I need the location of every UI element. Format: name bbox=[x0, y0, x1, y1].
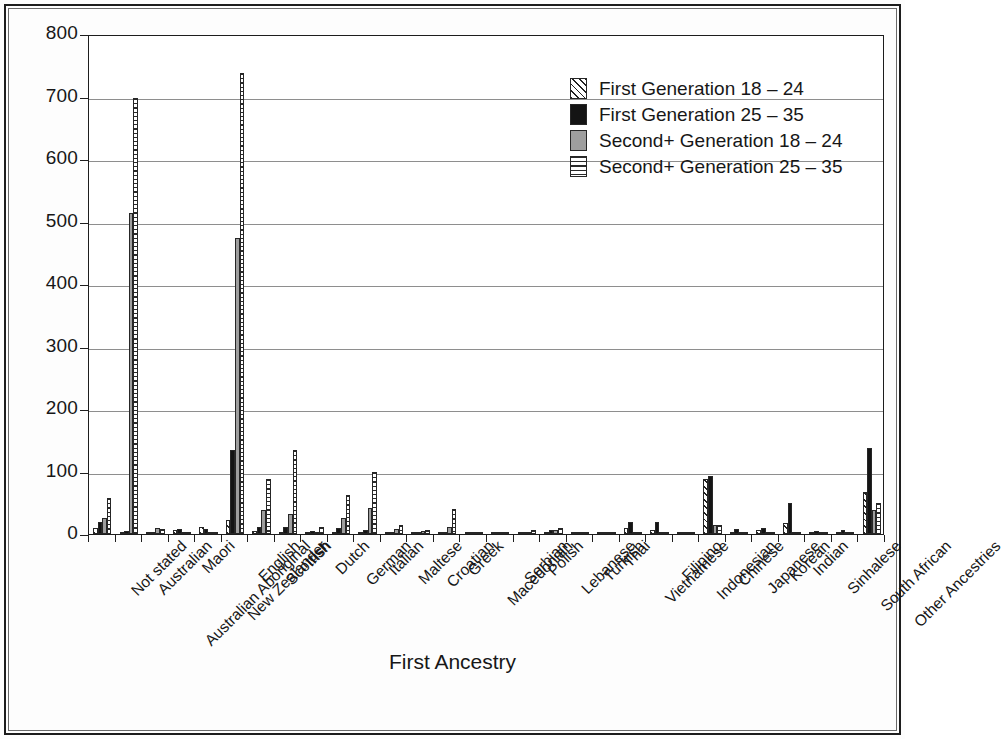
bar bbox=[717, 525, 722, 534]
bar bbox=[266, 479, 271, 534]
bar-group bbox=[169, 36, 196, 534]
bar bbox=[240, 73, 245, 534]
legend-swatch-diagonal-hatch-icon bbox=[570, 78, 587, 99]
bar bbox=[293, 450, 298, 534]
y-tick-label-800: 800 bbox=[20, 22, 78, 44]
y-tick-label-300: 300 bbox=[20, 335, 78, 357]
bar-group bbox=[195, 36, 222, 534]
bar-group bbox=[89, 36, 116, 534]
bar bbox=[876, 503, 881, 534]
bar bbox=[788, 503, 793, 534]
legend-swatch-solid-gray-icon bbox=[570, 130, 587, 151]
y-tick-label-100: 100 bbox=[20, 460, 78, 482]
legend-label: Second+ Generation 18 – 24 bbox=[599, 130, 843, 151]
y-tick-label-0: 0 bbox=[20, 522, 78, 544]
legend-label: Second+ Generation 25 – 35 bbox=[599, 156, 843, 177]
y-tick-label-500: 500 bbox=[20, 210, 78, 232]
bar-group bbox=[407, 36, 434, 534]
bar bbox=[505, 532, 510, 534]
y-tick-label-400: 400 bbox=[20, 272, 78, 294]
bar bbox=[850, 532, 855, 534]
legend-label: First Generation 18 – 24 bbox=[599, 78, 804, 99]
bar bbox=[372, 472, 377, 535]
bar bbox=[744, 532, 749, 534]
bar bbox=[319, 527, 324, 534]
bar bbox=[425, 530, 430, 534]
x-tick-label: Other Ancestries bbox=[910, 537, 1004, 631]
bar bbox=[664, 532, 669, 534]
y-tick-mark-0 bbox=[80, 535, 88, 536]
legend-item: First Generation 25 – 35 bbox=[570, 102, 843, 126]
bar-group bbox=[540, 36, 567, 534]
bar bbox=[584, 532, 589, 534]
legend-swatch-horizontal-lines-icon bbox=[570, 156, 587, 177]
legend-swatch-solid-black-icon bbox=[570, 104, 587, 125]
bar-group bbox=[514, 36, 541, 534]
legend-item: Second+ Generation 25 – 35 bbox=[570, 154, 843, 178]
bar bbox=[478, 532, 483, 535]
bar bbox=[691, 532, 696, 534]
bar-group bbox=[142, 36, 169, 534]
chart-legend: First Generation 18 – 24First Generation… bbox=[570, 76, 843, 180]
y-tick-mark-500 bbox=[80, 223, 88, 224]
y-tick-mark-800 bbox=[80, 35, 88, 36]
y-tick-mark-400 bbox=[80, 285, 88, 286]
x-axis-title: First Ancestry bbox=[0, 650, 905, 674]
bar bbox=[452, 509, 457, 534]
bar-group bbox=[434, 36, 461, 534]
bar bbox=[107, 498, 112, 534]
y-tick-label-700: 700 bbox=[20, 85, 78, 107]
y-tick-mark-100 bbox=[80, 473, 88, 474]
bar-group bbox=[460, 36, 487, 534]
bar bbox=[160, 529, 165, 534]
y-tick-mark-300 bbox=[80, 348, 88, 349]
bar bbox=[611, 532, 616, 534]
bar bbox=[186, 532, 191, 534]
y-tick-mark-600 bbox=[80, 160, 88, 161]
bar-group bbox=[222, 36, 249, 534]
bar bbox=[823, 532, 828, 534]
x-tick-mark bbox=[884, 535, 885, 542]
bar-group bbox=[487, 36, 514, 534]
legend-item: First Generation 18 – 24 bbox=[570, 76, 843, 100]
bar-group bbox=[858, 36, 885, 534]
bar-group bbox=[328, 36, 355, 534]
bar-group bbox=[116, 36, 143, 534]
bar bbox=[770, 532, 775, 534]
bar bbox=[797, 532, 802, 534]
legend-item: Second+ Generation 18 – 24 bbox=[570, 128, 843, 152]
bar bbox=[638, 532, 643, 534]
y-tick-label-600: 600 bbox=[20, 147, 78, 169]
bar bbox=[399, 525, 404, 534]
bar-group bbox=[301, 36, 328, 534]
bar-group bbox=[381, 36, 408, 534]
bar bbox=[531, 530, 536, 534]
bar bbox=[558, 528, 563, 534]
y-tick-label-200: 200 bbox=[20, 397, 78, 419]
bar-group bbox=[354, 36, 381, 534]
bar-group bbox=[275, 36, 302, 534]
bar bbox=[133, 98, 138, 534]
bar bbox=[213, 532, 218, 534]
y-tick-mark-200 bbox=[80, 410, 88, 411]
legend-label: First Generation 25 – 35 bbox=[599, 104, 804, 125]
bar-group bbox=[248, 36, 275, 534]
bar bbox=[346, 495, 351, 534]
y-tick-mark-700 bbox=[80, 98, 88, 99]
